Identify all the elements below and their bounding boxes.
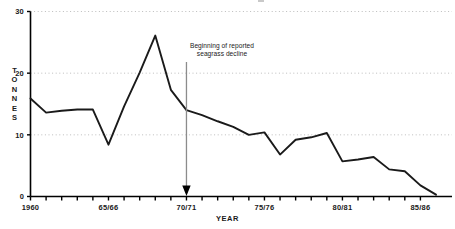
decline-annotation-label: Beginning of reported seagrass decline [176, 42, 268, 58]
y-axis-title-letter: E [9, 104, 20, 113]
x-axis-title: YEAR [0, 214, 455, 223]
y-tick-label-30: 30 [2, 7, 24, 16]
data-series-line [31, 36, 437, 195]
y-axis-title: T O N N E S [9, 66, 20, 122]
y-axis-title-letter: T [9, 66, 20, 75]
x-tick-label: 70/71 [161, 203, 211, 212]
x-tick-label: 75/76 [239, 203, 289, 212]
y-tick-label-10: 10 [2, 131, 24, 140]
y-axis-title-letter: O [9, 75, 20, 84]
x-tick-label: 1960 [6, 203, 56, 212]
y-tick-label-0: 0 [2, 192, 24, 201]
annotation-line-2: seagrass decline [176, 50, 268, 58]
annotation-arrow-head [182, 186, 190, 197]
x-tick-label: 85/86 [395, 203, 445, 212]
y-axis-title-letter: N [9, 94, 20, 103]
y-axis-title-letter: S [9, 113, 20, 122]
seagrass-tonnes-line-chart: 30 20 10 0 T O N N E S 196065/6670/7175/… [0, 0, 455, 229]
chart-plot-area [0, 0, 455, 229]
y-axis-title-letter: N [9, 85, 20, 94]
x-tick-label: 80/81 [317, 203, 367, 212]
annotation-line-1: Beginning of reported [176, 42, 268, 50]
x-tick-label: 65/66 [83, 203, 133, 212]
